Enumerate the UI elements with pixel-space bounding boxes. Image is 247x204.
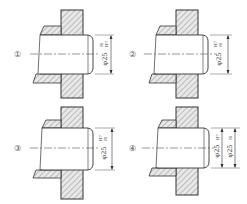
dimension-label: φ25 — [101, 53, 109, 66]
svg-text:φ25: φ25 — [215, 53, 223, 66]
shaft-hole-drawing-1: φ25 f6 H7 ① — [0, 0, 124, 102]
shaft-hole-drawing-2: φ25 H7 f6 ② — [124, 0, 247, 102]
svg-text:f6: f6 — [103, 137, 108, 141]
panel-marker: ④ — [129, 144, 136, 153]
panel-4: φ25 H7 φ25 f6 ④ — [124, 102, 247, 204]
panel-3: φ25 H7 f6 ③ — [0, 102, 124, 204]
svg-text:H7: H7 — [215, 134, 220, 140]
panel-marker: ① — [14, 50, 21, 59]
shaft-hole-drawing-3: φ25 H7 f6 ③ — [0, 102, 124, 204]
panel-marker: ③ — [14, 144, 21, 153]
svg-text:f6: f6 — [228, 136, 233, 140]
panel-marker: ② — [129, 50, 136, 59]
panel-2: φ25 H7 f6 ② — [124, 0, 247, 102]
svg-text:φ25: φ25 — [100, 147, 108, 160]
shaft-hole-drawing-4: φ25 H7 φ25 f6 ④ — [124, 102, 247, 204]
svg-text:φ25: φ25 — [213, 145, 221, 158]
svg-text:f6: f6 — [218, 43, 223, 47]
svg-text:φ25: φ25 — [226, 145, 234, 158]
svg-text:H7: H7 — [104, 41, 109, 47]
panel-1: φ25 f6 H7 ① — [0, 0, 124, 102]
